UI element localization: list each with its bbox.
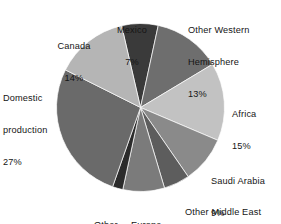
pie-chart: Mexico 7% Other Western Hemisphere 13% C… (0, 0, 281, 224)
pie-label-other-middle-east-name: Other Middle East (185, 207, 281, 218)
pie-label-europe-name: Europe (131, 220, 177, 224)
pie-label-domestic-production-line1: Domestic (3, 93, 69, 104)
pie-label-other-western-hemisphere-line2: Hemisphere (188, 57, 280, 68)
pie-label-other-western-hemisphere-line1: Other Western (188, 25, 280, 36)
pie-label-mexico-name: Mexico (104, 25, 160, 36)
pie-label-domestic-production-value: 27% (3, 157, 69, 168)
pie-label-other: Other 2% (94, 199, 134, 224)
pie-label-other-name: Other (94, 220, 134, 224)
pie-label-mexico-value: 7% (104, 57, 160, 68)
pie-label-domestic-production-line2: production (3, 125, 69, 136)
pie-label-europe: Europe 8% (131, 199, 177, 224)
pie-label-domestic-production: Domestic production 27% (3, 72, 69, 189)
pie-label-africa-value: 15% (232, 141, 280, 152)
pie-label-other-middle-east: Other Middle East 5% (185, 186, 281, 224)
pie-label-canada-name: Canada (46, 41, 102, 52)
pie-label-mexico: Mexico 7% (104, 4, 160, 89)
pie-label-africa-name: Africa (232, 109, 280, 120)
